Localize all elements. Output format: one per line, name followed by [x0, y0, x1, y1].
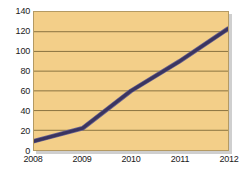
y-axis-tick-label: 20 — [0, 127, 30, 136]
x-axis-tick-labels: 20082009201020112012 — [33, 155, 229, 171]
series-line-highlight — [34, 29, 228, 141]
y-axis-tick-label: 60 — [0, 87, 30, 96]
y-axis-tick-label: 100 — [0, 47, 30, 56]
x-axis-tick-label: 2012 — [219, 155, 238, 164]
line-chart: 020406080100120140 20082009201020112012 — [0, 0, 245, 181]
y-axis-tick-label: 140 — [0, 7, 30, 16]
x-axis-tick-label: 2009 — [72, 155, 91, 164]
x-axis-tick-label: 2010 — [121, 155, 140, 164]
plot-area — [33, 11, 229, 151]
series-line — [34, 12, 228, 150]
y-axis-tick-label: 40 — [0, 107, 30, 116]
x-axis-tick-label: 2011 — [171, 155, 190, 164]
y-axis-tick-labels: 020406080100120140 — [0, 11, 30, 151]
x-axis-tick-label: 2008 — [23, 155, 42, 164]
y-axis-tick-label: 80 — [0, 67, 30, 76]
y-axis-tick-label: 120 — [0, 27, 30, 36]
